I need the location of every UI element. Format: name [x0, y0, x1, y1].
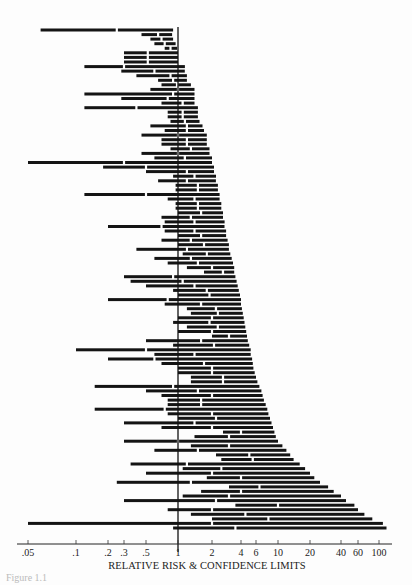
interval-segment	[158, 179, 186, 182]
interval-segment	[211, 321, 245, 324]
interval-segment	[188, 143, 207, 146]
interval-segment	[165, 129, 186, 132]
interval-segment	[124, 275, 172, 278]
interval-row	[150, 38, 173, 41]
interval-row	[176, 188, 218, 191]
interval-segment	[224, 271, 234, 274]
interval-row	[158, 179, 216, 182]
interval-row	[191, 513, 365, 516]
interval-row	[165, 303, 241, 306]
interval-row	[142, 134, 207, 137]
interval-row	[124, 51, 178, 54]
interval-segment	[213, 472, 310, 475]
interval-row	[168, 399, 264, 402]
interval-segment	[84, 65, 123, 68]
interval-row	[84, 65, 184, 68]
interval-row	[154, 42, 175, 45]
interval-segment	[124, 61, 147, 64]
interval-segment	[174, 93, 194, 96]
x-tick-label: .05	[22, 547, 35, 558]
interval-segment	[196, 230, 227, 233]
interval-row	[162, 143, 207, 146]
interval-segment	[165, 220, 194, 223]
interval-segment	[213, 522, 383, 525]
interval-segment	[219, 326, 245, 329]
interval-segment	[188, 170, 214, 173]
interval-row	[235, 504, 354, 507]
interval-segment	[191, 376, 222, 379]
interval-row	[124, 421, 272, 424]
interval-segment	[163, 38, 174, 41]
interval-segment	[212, 335, 228, 338]
interval-segment	[169, 97, 195, 100]
interval-segment	[149, 51, 178, 54]
interval-segment	[205, 362, 253, 365]
interval-segment	[191, 513, 244, 516]
interval-row	[178, 417, 270, 420]
x-tick-label: .5	[142, 547, 150, 558]
interval-segment	[199, 202, 221, 205]
interval-segment	[163, 225, 225, 228]
interval-row	[165, 47, 177, 50]
interval-row	[178, 234, 226, 237]
interval-segment	[162, 138, 186, 141]
interval-segment	[213, 508, 358, 511]
interval-segment	[159, 33, 172, 36]
interval-segment	[183, 495, 228, 498]
interval-segment	[158, 79, 172, 82]
interval-row	[168, 111, 198, 114]
interval-segment	[162, 426, 211, 429]
interval-row	[117, 481, 320, 484]
interval-segment	[154, 257, 189, 260]
interval-segment	[150, 124, 185, 127]
interval-segment	[213, 330, 246, 333]
interval-row	[187, 266, 234, 269]
interval-row	[146, 472, 310, 475]
interval-row	[158, 79, 187, 82]
interval-segment	[208, 289, 239, 292]
interval-segment	[149, 56, 178, 59]
interval-segment	[213, 316, 244, 319]
interval-row	[154, 449, 286, 452]
interval-segment	[183, 252, 206, 255]
interval-segment	[174, 275, 235, 278]
interval-row	[142, 152, 210, 155]
interval-row	[178, 211, 223, 214]
interval-row	[28, 522, 383, 525]
interval-row	[162, 394, 263, 397]
interval-segment	[142, 134, 177, 137]
interval-segment	[84, 106, 135, 109]
interval-segment	[188, 138, 207, 141]
interval-row	[168, 403, 266, 406]
interval-row	[103, 166, 214, 169]
interval-segment	[215, 344, 249, 347]
interval-segment	[279, 504, 354, 507]
interval-row	[178, 330, 246, 333]
interval-segment	[168, 508, 211, 511]
interval-segment	[188, 129, 204, 132]
interval-segment	[199, 184, 218, 187]
interval-segment	[237, 527, 387, 530]
interval-segment	[217, 307, 242, 310]
interval-segment	[213, 266, 234, 269]
interval-segment	[196, 220, 225, 223]
interval-row	[168, 115, 198, 118]
interval-segment	[208, 252, 230, 255]
interval-segment	[199, 262, 233, 265]
interval-row	[204, 271, 234, 274]
interval-segment	[196, 198, 220, 201]
interval-segment	[162, 394, 211, 397]
interval-segment	[219, 312, 243, 315]
interval-segment	[230, 435, 276, 438]
interval-row	[131, 463, 300, 466]
interval-segment	[162, 239, 190, 242]
interval-segment	[172, 74, 187, 77]
interval-segment	[201, 490, 240, 493]
interval-row	[168, 508, 358, 511]
interval-segment	[222, 467, 305, 470]
interval-row	[207, 476, 314, 479]
interval-segment	[178, 83, 191, 86]
interval-row	[131, 280, 237, 283]
interval-segment	[230, 444, 282, 447]
interval-segment	[124, 440, 177, 443]
